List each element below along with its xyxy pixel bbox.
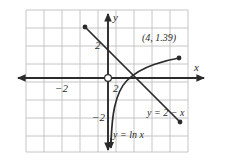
origin-circle-icon bbox=[105, 75, 112, 82]
graph-figure: y x 2 −2 2 −2 (4, 1.39) y = 2 − x y = ln… bbox=[0, 0, 226, 162]
x-axis-label: x bbox=[194, 62, 199, 73]
x-tick-label-2: 2 bbox=[113, 83, 119, 94]
line-endpoint-dot-lower bbox=[178, 120, 183, 125]
x-tick-label-minus-2: −2 bbox=[55, 83, 68, 94]
annotation-line-label: y = 2 − x bbox=[147, 108, 184, 118]
y-axis-label: y bbox=[113, 12, 118, 23]
y-tick-label-minus-2: −2 bbox=[92, 112, 105, 123]
annotation-point-label: (4, 1.39) bbox=[142, 33, 176, 43]
curve-endpoint-dot bbox=[177, 56, 182, 61]
y-tick-label-2: 2 bbox=[95, 40, 101, 51]
annotation-curve-label: y = ln x bbox=[113, 130, 144, 140]
line-endpoint-dot-upper bbox=[83, 25, 88, 30]
